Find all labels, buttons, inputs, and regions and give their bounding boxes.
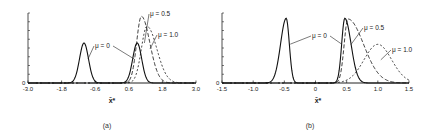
curve-label: μ = 0.5 xyxy=(364,24,385,32)
panel-b: 0-1.5-1.0-0.500.51.01.5x̄*μ = 0μ = 0.5μ … xyxy=(216,13,414,130)
panel-a: 0-3.0-1.8-0.60.61.83.0x̄*μ = 0μ = 0.5μ =… xyxy=(22,10,201,130)
leader-line xyxy=(381,50,391,60)
x-tick-label: -1.0 xyxy=(248,86,259,92)
x-tick-label: -3.0 xyxy=(23,86,34,92)
x-tick-label: 0 xyxy=(314,86,318,92)
x-tick-label: -0.5 xyxy=(279,86,290,92)
leader-line xyxy=(113,46,134,59)
curve-label: μ = 1.0 xyxy=(392,46,413,54)
leader-line xyxy=(88,46,94,59)
x-tick-label: 1.0 xyxy=(374,86,383,92)
x-tick-label: 0.5 xyxy=(342,86,351,92)
curve-0 xyxy=(28,43,196,83)
x-tick-label: -0.6 xyxy=(90,86,101,92)
curve-label: μ = 0 xyxy=(95,42,110,50)
x-tick-label: 1.8 xyxy=(158,86,167,92)
panel-caption: (a) xyxy=(103,122,112,130)
panel-caption: (b) xyxy=(306,122,315,130)
x-tick-label: 3.0 xyxy=(192,86,201,92)
x-tick-label: -1.8 xyxy=(56,86,67,92)
curve-label: μ = 1.0 xyxy=(158,31,179,39)
figure: 0-3.0-1.8-0.60.61.83.0x̄*μ = 0μ = 0.5μ =… xyxy=(0,0,435,139)
x-axis-title: x̄* xyxy=(315,97,322,104)
leader-line xyxy=(290,36,311,44)
curve-label: μ = 0.5 xyxy=(150,10,171,18)
curve-1-0 xyxy=(222,44,409,83)
leader-line xyxy=(351,28,363,45)
x-tick-label: 0.6 xyxy=(125,86,134,92)
x-axis-title: x̄* xyxy=(109,97,116,104)
x-tick-label: 1.5 xyxy=(405,86,414,92)
curve-label: μ = 0 xyxy=(312,32,327,40)
leader-line xyxy=(330,36,342,44)
curve-0-5 xyxy=(28,16,196,83)
x-tick-label: -1.5 xyxy=(217,86,228,92)
leader-line xyxy=(144,14,149,43)
